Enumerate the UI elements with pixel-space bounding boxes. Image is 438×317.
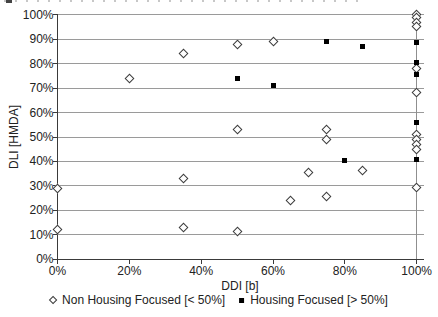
- open-diamond-marker-icon: [49, 296, 57, 304]
- y-gridline: [58, 14, 424, 15]
- y-gridline: [58, 185, 424, 186]
- data-point-housing-focused: [271, 83, 276, 88]
- y-tick-label: 30%: [18, 179, 54, 193]
- y-tick-label: 100%: [18, 8, 54, 22]
- data-point-housing-focused: [414, 40, 419, 45]
- data-point-housing-focused: [324, 39, 329, 44]
- y-tick-label: 20%: [18, 203, 54, 217]
- y-tick-label: 50%: [18, 130, 54, 144]
- data-point-non-housing-focused: [358, 165, 368, 175]
- y-gridline: [58, 137, 424, 138]
- filled-square-marker-icon: [239, 298, 244, 303]
- data-point-non-housing-focused: [412, 88, 422, 98]
- data-point-housing-focused: [342, 158, 347, 163]
- x-tick-mark: [57, 259, 58, 264]
- x-tick-mark: [201, 259, 202, 264]
- x-tick-mark: [273, 259, 274, 264]
- x-tick-label: 60%: [251, 264, 295, 278]
- x-tick-label: 20%: [107, 264, 151, 278]
- legend-item-non-housing-focused: Non Housing Focused [< 50%]: [50, 293, 225, 307]
- data-point-non-housing-focused: [232, 125, 242, 135]
- y-axis-line: [57, 15, 58, 260]
- y-gridline: [58, 210, 424, 211]
- y-tick-label: 80%: [18, 57, 54, 71]
- x-tick-label: 0%: [36, 264, 80, 278]
- x-tick-label: 40%: [179, 264, 223, 278]
- y-gridline: [58, 161, 424, 162]
- y-tick-label: 90%: [18, 32, 54, 46]
- data-point-non-housing-focused: [124, 73, 134, 83]
- legend-label-housing-focused: Housing Focused [> 50%]: [250, 293, 388, 307]
- x-tick-label: 100%: [395, 264, 438, 278]
- data-point-housing-focused: [414, 60, 419, 65]
- legend-label-non-housing-focused: Non Housing Focused [< 50%]: [62, 293, 225, 307]
- data-point-non-housing-focused: [412, 182, 422, 192]
- x-tick-mark: [416, 259, 417, 264]
- data-point-non-housing-focused: [178, 223, 188, 233]
- data-point-non-housing-focused: [178, 174, 188, 184]
- x-tick-mark: [129, 259, 130, 264]
- x-tick-label: 80%: [323, 264, 367, 278]
- y-gridline: [58, 112, 424, 113]
- y-gridline: [58, 88, 424, 89]
- data-point-housing-focused: [414, 157, 419, 162]
- y-gridline: [58, 63, 424, 64]
- data-point-non-housing-focused: [322, 192, 332, 202]
- legend-item-housing-focused: Housing Focused [> 50%]: [239, 293, 388, 307]
- data-point-non-housing-focused: [304, 168, 314, 178]
- data-point-non-housing-focused: [232, 39, 242, 49]
- x-tick-mark: [344, 259, 345, 264]
- legend: Non Housing Focused [< 50%] Housing Focu…: [50, 293, 388, 307]
- x-axis-line: [58, 259, 424, 260]
- data-point-non-housing-focused: [286, 196, 296, 206]
- y-tick-label: 70%: [18, 81, 54, 95]
- y-tick-label: 40%: [18, 154, 54, 168]
- data-point-non-housing-focused: [322, 125, 332, 135]
- data-point-housing-focused: [360, 44, 365, 49]
- y-tick-label: 60%: [18, 106, 54, 120]
- y-gridline: [58, 39, 424, 40]
- data-point-housing-focused: [414, 72, 419, 77]
- y-gridline: [58, 234, 424, 235]
- data-point-housing-focused: [414, 120, 419, 125]
- y-tick-label: 10%: [18, 228, 54, 242]
- scatter-chart: DLI [HMDA] DDI [b] 0%10%20%30%40%50%60%7…: [0, 0, 438, 317]
- plot-area: 0%10%20%30%40%50%60%70%80%90%100%0%20%40…: [0, 0, 438, 317]
- data-point-housing-focused: [235, 76, 240, 81]
- data-point-non-housing-focused: [178, 49, 188, 59]
